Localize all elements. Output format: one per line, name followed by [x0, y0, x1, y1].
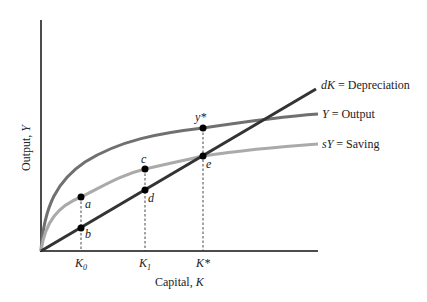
label-d: d [148, 191, 155, 205]
tick-k1: K1 [138, 256, 151, 272]
depreciation-label: dK = Depreciation [321, 78, 410, 92]
label-a: a [85, 197, 91, 211]
tick-kstar: K* [195, 256, 210, 270]
point-c [142, 166, 149, 173]
point-a [78, 194, 85, 201]
saving-label: sY = Saving [322, 137, 379, 151]
point-ystar [200, 125, 207, 132]
label-b: b [85, 227, 91, 241]
solow-chart: a b c d y* e dK = Depreciation Y = Outpu… [0, 0, 427, 302]
label-c: c [141, 152, 147, 166]
label-ystar: y* [194, 110, 206, 124]
y-axis-title: Output, Y [19, 124, 33, 171]
output-label: Y = Output [322, 107, 375, 121]
point-b [78, 225, 85, 232]
label-e: e [206, 157, 212, 171]
tick-k0: K0 [74, 256, 87, 272]
x-axis-title: Capital, K [155, 275, 205, 289]
